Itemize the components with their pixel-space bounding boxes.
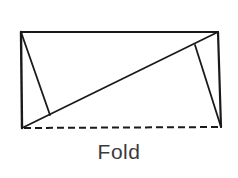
diagonal-line — [22, 32, 218, 128]
perpendicular-right — [195, 45, 221, 127]
fold-label: Fold — [0, 140, 238, 164]
perpendicular-left — [21, 32, 50, 115]
fold-line-dashed — [24, 127, 221, 128]
rectangle-left-edge — [21, 32, 22, 128]
rectangle-right-edge — [218, 32, 221, 127]
